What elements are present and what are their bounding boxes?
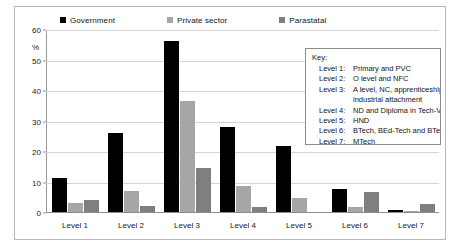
bar-government bbox=[388, 210, 403, 212]
x-tick-label: Level 3 bbox=[174, 221, 200, 230]
y-tick-mark bbox=[43, 30, 46, 31]
bar-group: Level 1 bbox=[47, 30, 103, 212]
legend-swatch-government bbox=[60, 17, 66, 23]
y-tick-mark bbox=[43, 152, 46, 153]
key-row-level: Level 5: bbox=[319, 116, 353, 126]
key-row-level: Level 3: bbox=[319, 85, 353, 95]
bar-private-sector bbox=[292, 198, 307, 212]
chart-container: Government Private sector Parastatal 010… bbox=[0, 0, 459, 252]
bar-parastatal bbox=[140, 206, 155, 212]
key-row-level: Level 2: bbox=[319, 74, 353, 84]
x-tick-label: Level 7 bbox=[398, 221, 424, 230]
y-tick-label: 20 bbox=[32, 148, 41, 157]
y-axis-unit-label: % bbox=[32, 43, 39, 52]
x-axis-line bbox=[46, 212, 439, 213]
key-row: Level 7:MTech bbox=[312, 137, 440, 145]
bar-government bbox=[108, 133, 123, 212]
key-row-level: Level 4: bbox=[319, 106, 353, 116]
y-tick-label: 10 bbox=[32, 178, 41, 187]
bar-government bbox=[220, 127, 235, 212]
bar-private-sector bbox=[124, 191, 139, 212]
key-row: Level 5:HND bbox=[312, 116, 440, 126]
bar-government bbox=[164, 41, 179, 212]
legend-label-parastatal: Parastatal bbox=[289, 16, 326, 25]
x-tick-label: Level 1 bbox=[62, 221, 88, 230]
key-row-description: BTech, BEd-Tech and BTechTr bbox=[353, 126, 441, 136]
legend-label-private-sector: Private sector bbox=[177, 16, 227, 25]
x-tick-label: Level 2 bbox=[118, 221, 144, 230]
y-tick-mark bbox=[43, 182, 46, 183]
y-tick-label: 0 bbox=[37, 209, 41, 218]
y-tick-label: 50 bbox=[32, 56, 41, 65]
bar-parastatal bbox=[364, 192, 379, 212]
key-row-level: Level 1: bbox=[319, 64, 353, 74]
key-row: Level 3:A level, NC, apprenticeship and bbox=[312, 85, 440, 95]
key-row: Level 4:ND and Diploma in Tech-Voc bbox=[312, 106, 440, 116]
y-tick-label: 30 bbox=[32, 117, 41, 126]
bar-private-sector bbox=[236, 186, 251, 212]
key-row-description: ND and Diploma in Tech-Voc bbox=[353, 106, 441, 116]
y-tick-label: 60 bbox=[32, 26, 41, 35]
bar-group: Level 2 bbox=[103, 30, 159, 212]
bar-government bbox=[332, 189, 347, 212]
bar-group: Level 3 bbox=[159, 30, 215, 212]
key-row: Level 6:BTech, BEd-Tech and BTechTr bbox=[312, 126, 440, 136]
key-row-description: HND bbox=[353, 116, 440, 126]
chart-legend: Government Private sector Parastatal bbox=[60, 13, 360, 27]
legend-swatch-parastatal bbox=[279, 17, 285, 23]
bar-private-sector bbox=[348, 207, 363, 212]
bar-private-sector bbox=[404, 211, 419, 212]
bar-government bbox=[52, 178, 67, 212]
legend-item-government: Government bbox=[60, 16, 115, 25]
bar-group: Level 4 bbox=[215, 30, 271, 212]
bar-parastatal bbox=[420, 204, 435, 212]
bar-private-sector bbox=[180, 101, 195, 212]
x-tick-label: Level 4 bbox=[230, 221, 256, 230]
key-row-description: O level and NFC bbox=[353, 74, 440, 84]
key-row-level: Level 7: bbox=[319, 137, 353, 145]
legend-item-parastatal: Parastatal bbox=[279, 16, 326, 25]
key-box-title: Key: bbox=[312, 53, 440, 63]
y-tick-label: 40 bbox=[32, 87, 41, 96]
key-row-description: A level, NC, apprenticeship and bbox=[353, 85, 441, 95]
bar-parastatal bbox=[84, 200, 99, 212]
key-box-rows: Level 1:Primary and PVCLevel 2:O level a… bbox=[312, 64, 440, 145]
y-tick-mark bbox=[43, 213, 46, 214]
legend-item-private-sector: Private sector bbox=[167, 16, 227, 25]
bar-government bbox=[276, 146, 291, 212]
y-tick-mark bbox=[43, 91, 46, 92]
key-row-description-continued: industrial attachment bbox=[312, 95, 440, 105]
key-box: Key: Level 1:Primary and PVCLevel 2:O le… bbox=[305, 48, 441, 145]
legend-swatch-private-sector bbox=[167, 17, 173, 23]
key-row-description: MTech bbox=[353, 137, 440, 145]
legend-label-government: Government bbox=[70, 16, 115, 25]
y-tick-mark bbox=[43, 121, 46, 122]
x-tick-label: Level 5 bbox=[286, 221, 312, 230]
x-tick-label: Level 6 bbox=[342, 221, 368, 230]
y-tick-mark bbox=[43, 60, 46, 61]
bar-parastatal bbox=[196, 168, 211, 212]
key-row: Level 1:Primary and PVC bbox=[312, 64, 440, 74]
key-row-description: Primary and PVC bbox=[353, 64, 440, 74]
key-row: Level 2:O level and NFC bbox=[312, 74, 440, 84]
bar-private-sector bbox=[68, 203, 83, 212]
bar-parastatal bbox=[252, 207, 267, 212]
key-row-level: Level 6: bbox=[319, 126, 353, 136]
